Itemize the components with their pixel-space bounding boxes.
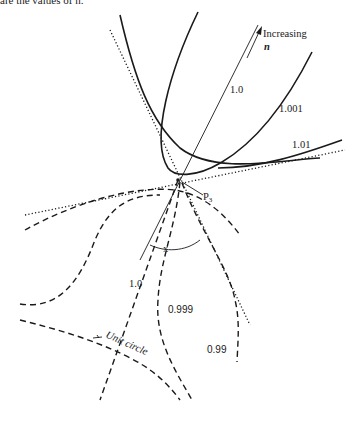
- angle-x-arc: [150, 240, 200, 250]
- unit-circle-tick: [93, 335, 102, 338]
- increasing-label: Increasing: [263, 28, 307, 39]
- dashed-curve-1.0-radial: [100, 180, 178, 400]
- label-solid-1.0: 1.0: [230, 84, 243, 95]
- label-unit-circle: Unit circle: [104, 329, 150, 357]
- unit-circle-arc: [20, 320, 180, 400]
- n-label: n: [264, 41, 270, 52]
- radial-line-1.0: [140, 25, 258, 260]
- refractive-index-diagram: Increasing n 1.0 1.001 1.01 P3 x 1.0 0.9…: [0, 0, 348, 423]
- p3-leader-line: [182, 182, 203, 195]
- label-dashed-1.0: 1.0: [129, 278, 142, 289]
- label-p3: P3: [203, 191, 213, 204]
- label-solid-1.01: 1.01: [292, 139, 310, 150]
- label-solid-1.001: 1.001: [279, 103, 303, 114]
- label-angle-x: x: [163, 243, 169, 254]
- label-dashed-0.999: 0.999: [168, 304, 193, 315]
- dashed-curve-0.99: [182, 183, 238, 362]
- label-dashed-0.99: 0.99: [207, 344, 227, 355]
- point-p3: [176, 178, 180, 182]
